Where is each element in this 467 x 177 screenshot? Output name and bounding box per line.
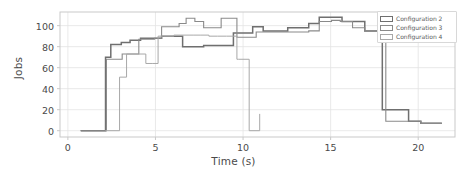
y-tick-label: 0 bbox=[26, 125, 54, 136]
x-tick-label: 0 bbox=[65, 142, 71, 153]
legend-swatch-icon bbox=[380, 34, 393, 40]
y-tick-label: 100 bbox=[26, 20, 54, 31]
chart-legend: Configuration 2Configuration 3Configurat… bbox=[377, 11, 457, 43]
legend-item-label: Configuration 3 bbox=[396, 24, 442, 31]
y-tick-label: 40 bbox=[26, 83, 54, 94]
chart-figure: Jobs Time (s) 05101520 020406080100 Conf… bbox=[0, 0, 467, 177]
legend-item[interactable]: Configuration 2 bbox=[380, 14, 453, 23]
x-tick-label: 5 bbox=[152, 142, 158, 153]
x-tick-label: 15 bbox=[325, 142, 337, 153]
legend-swatch-icon bbox=[380, 16, 393, 22]
series-line-3 bbox=[106, 35, 260, 131]
y-tick-label: 20 bbox=[26, 104, 54, 115]
legend-swatch-icon bbox=[380, 25, 393, 31]
y-tick-label: 60 bbox=[26, 62, 54, 73]
legend-item-label: Configuration 4 bbox=[396, 33, 442, 40]
x-axis-label: Time (s) bbox=[0, 155, 467, 167]
legend-item[interactable]: Configuration 4 bbox=[380, 32, 453, 41]
x-tick-label: 10 bbox=[237, 142, 249, 153]
x-tick-label: 20 bbox=[412, 142, 424, 153]
y-tick-label: 80 bbox=[26, 41, 54, 52]
legend-item-label: Configuration 2 bbox=[396, 15, 442, 22]
legend-item[interactable]: Configuration 3 bbox=[380, 23, 453, 32]
y-axis-label: Jobs bbox=[12, 38, 24, 98]
